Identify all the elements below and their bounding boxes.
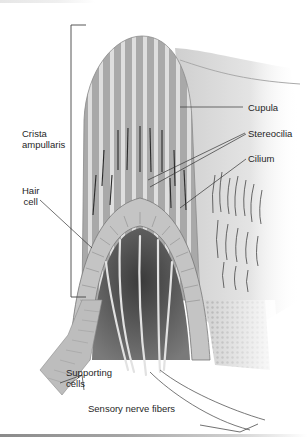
label-cupula: Cupula bbox=[248, 102, 278, 113]
label-stereocilia: Stereocilia bbox=[248, 128, 292, 139]
crista-ampullaris-illustration bbox=[0, 0, 307, 437]
label-crista-ampullaris: Crista ampullaris bbox=[22, 128, 65, 150]
label-supporting-cells: Supporting cells bbox=[66, 367, 112, 389]
label-hair-line1: Hair bbox=[22, 185, 39, 196]
label-supporting-line1: Supporting bbox=[66, 367, 112, 378]
label-crista-line2: ampullaris bbox=[22, 139, 65, 150]
label-hair-line2: cell bbox=[22, 196, 39, 207]
label-cilium: Cilium bbox=[248, 153, 274, 164]
label-supporting-line2: cells bbox=[66, 378, 112, 389]
label-hair-cell: Hair cell bbox=[22, 185, 39, 207]
label-crista-line1: Crista bbox=[22, 128, 65, 139]
label-sensory-nerve-fibers: Sensory nerve fibers bbox=[88, 403, 175, 414]
